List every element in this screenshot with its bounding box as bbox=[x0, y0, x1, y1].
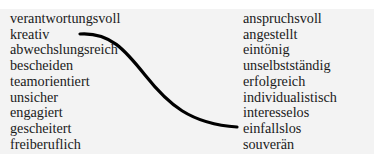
left-word: kreativ bbox=[10, 27, 120, 43]
right-word: anspruchsvoll bbox=[243, 11, 337, 27]
right-word: angestellt bbox=[243, 27, 337, 43]
page: verantwortungsvoll kreativ abwechslungsr… bbox=[0, 0, 374, 165]
left-word: teamorientiert bbox=[10, 74, 120, 90]
left-word: freiberuflich bbox=[10, 137, 120, 153]
left-word: gescheitert bbox=[10, 121, 120, 137]
right-word: interesselos bbox=[243, 105, 337, 121]
left-word: bescheiden bbox=[10, 58, 120, 74]
right-word: eintönig bbox=[243, 42, 337, 58]
left-word: abwechslungsreich bbox=[10, 42, 120, 58]
left-word-column: verantwortungsvoll kreativ abwechslungsr… bbox=[10, 11, 120, 152]
left-word: engagiert bbox=[10, 105, 120, 121]
right-word: einfallslos bbox=[243, 121, 337, 137]
matching-exercise-box: verantwortungsvoll kreativ abwechslungsr… bbox=[0, 9, 374, 154]
right-word: erfolgreich bbox=[243, 74, 337, 90]
left-word: verantwortungsvoll bbox=[10, 11, 120, 27]
cut-off-heading bbox=[0, 0, 374, 4]
right-word: unselbstständig bbox=[243, 58, 337, 74]
right-word: souverän bbox=[243, 137, 337, 153]
right-word-column: anspruchsvoll angestellt eintönig unselb… bbox=[243, 11, 337, 152]
right-word: individualistisch bbox=[243, 90, 337, 106]
left-word: unsicher bbox=[10, 90, 120, 106]
